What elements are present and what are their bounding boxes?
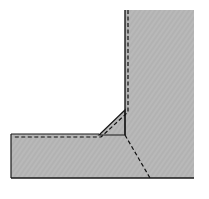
- weld-diagram: [0, 0, 209, 199]
- fusion-boundary-dashed: [13, 10, 128, 137]
- horizontal-plate: [11, 134, 125, 178]
- weld-bead: [99, 110, 125, 135]
